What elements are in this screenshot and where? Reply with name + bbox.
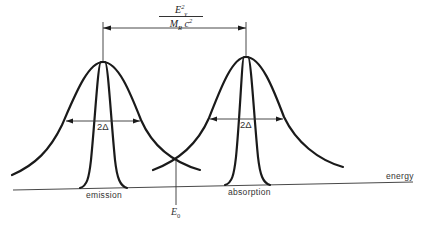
absorption-width-arrowhead-left — [210, 117, 217, 122]
absorption-label: absorption — [228, 187, 271, 197]
emission-broad-curve — [12, 62, 200, 175]
emission-label: emission — [86, 190, 122, 200]
absorption-width-arrowhead-right — [276, 117, 283, 122]
absorption-width-label: 2Δ — [240, 119, 252, 130]
shift-label: E2γ MR c2 — [157, 4, 205, 29]
emission-width-label: 2Δ — [97, 121, 109, 132]
shift-denominator: MR c2 — [157, 18, 205, 29]
energy-axis — [13, 182, 413, 190]
fraction-bar — [159, 16, 203, 17]
center-energy-label: E0 — [171, 206, 180, 217]
emission-width-arrowhead-left — [66, 119, 73, 124]
energy-axis-label: energy — [386, 171, 414, 181]
diagram-canvas — [0, 0, 424, 226]
absorption-broad-curve — [153, 57, 343, 170]
emission-width-arrowhead-right — [133, 119, 140, 124]
shift-numerator: E2γ — [157, 4, 205, 15]
shift-arrow-right — [238, 26, 246, 31]
shift-arrow-left — [103, 26, 111, 31]
